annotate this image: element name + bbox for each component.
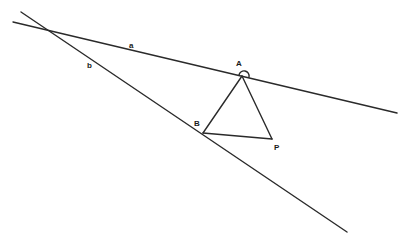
label-line-a: a <box>129 41 134 50</box>
segment-bp <box>203 133 272 139</box>
segment-ap <box>242 76 272 139</box>
line-a <box>13 22 397 113</box>
segment-ab <box>203 76 242 133</box>
geometry-diagram: a b A B P <box>0 0 401 247</box>
label-point-b: B <box>194 119 200 128</box>
label-point-a: A <box>236 59 242 68</box>
label-point-p: P <box>274 143 280 152</box>
label-line-b: b <box>87 61 92 70</box>
line-b <box>21 12 347 232</box>
